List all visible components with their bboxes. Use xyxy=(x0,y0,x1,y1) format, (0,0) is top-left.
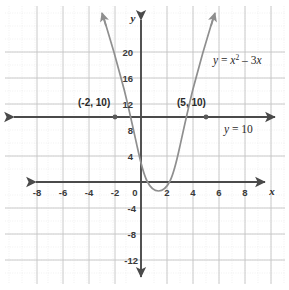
y-tick-label: 4 xyxy=(128,151,134,162)
x-tick-label: 2 xyxy=(164,187,169,198)
line-label-eq: = 10 xyxy=(229,123,253,135)
x-tick-label: 4 xyxy=(190,187,196,198)
x-tick-label: -2 xyxy=(111,187,119,198)
x-tick-label: -6 xyxy=(59,187,67,198)
y-tick-label: 20 xyxy=(122,47,133,58)
coordinate-plane-svg: -8 -6 -4 -2 0 2 4 6 8 20 16 12 8 4 -4 -8… xyxy=(0,0,289,290)
y-axis-name: y xyxy=(129,12,136,24)
y-tick-label: 12 xyxy=(122,99,133,110)
y-tick-label: 8 xyxy=(128,125,133,136)
y-tick-label: -4 xyxy=(128,203,137,214)
y-tick-label: -8 xyxy=(128,229,136,240)
x-tick-label-origin: 0 xyxy=(132,187,137,198)
y-tick-label: -12 xyxy=(124,255,138,266)
x-tick-label: -8 xyxy=(33,187,41,198)
line-equation-label: y = 10 xyxy=(223,123,253,136)
left-intersection-label: (-2, 10) xyxy=(78,97,110,108)
x-tick-label: -4 xyxy=(85,187,94,198)
figure-background xyxy=(0,0,289,290)
curve-label-minus: – 3 xyxy=(239,54,257,66)
x-tick-label: 8 xyxy=(242,187,247,198)
right-intersection-label: (5, 10) xyxy=(177,97,206,108)
x-axis-name: x xyxy=(268,185,275,197)
y-tick-label: 16 xyxy=(122,73,133,84)
intersection-point-left xyxy=(113,115,118,120)
x-tick-label: 6 xyxy=(216,187,221,198)
intersection-point-right xyxy=(204,115,209,120)
curve-label-x2: x xyxy=(255,54,262,66)
graph-figure: -8 -6 -4 -2 0 2 4 6 8 20 16 12 8 4 -4 -8… xyxy=(0,0,289,290)
curve-label-eq: = xyxy=(218,54,230,66)
